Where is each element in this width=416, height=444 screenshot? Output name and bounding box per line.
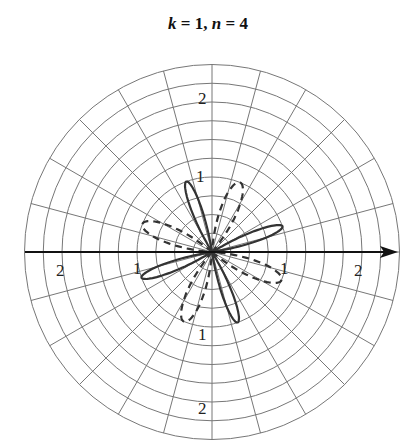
grid-spoke bbox=[212, 203, 393, 252]
radial-tick-label: 2 bbox=[354, 261, 363, 280]
radial-tick-label: 2 bbox=[198, 89, 207, 108]
polar-plot: 21211212 bbox=[0, 0, 416, 444]
radial-tick-label: 1 bbox=[196, 167, 205, 186]
radial-tick-label: 1 bbox=[133, 259, 142, 278]
grid-spoke bbox=[212, 252, 374, 346]
grid-spoke bbox=[212, 71, 261, 252]
grid-spoke bbox=[50, 158, 212, 252]
grid-spoke bbox=[31, 203, 212, 252]
radial-tick-label: 2 bbox=[198, 399, 207, 418]
grid-spoke bbox=[212, 90, 306, 252]
grid-spoke bbox=[212, 252, 393, 301]
radial-tick-label: 1 bbox=[198, 325, 207, 344]
radial-tick-label: 2 bbox=[56, 261, 65, 280]
radial-tick-label: 1 bbox=[280, 259, 289, 278]
grid-spoke bbox=[212, 252, 261, 433]
